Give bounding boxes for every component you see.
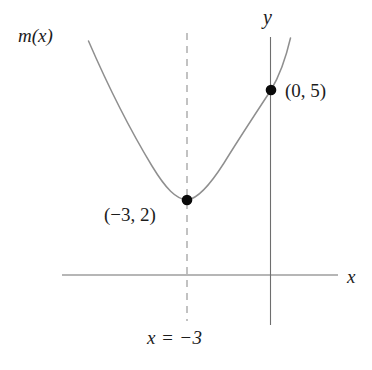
parabola-curve xyxy=(89,38,291,200)
parabola-figure: m(x) y x (0, 5) (−3, 2) x = −3 xyxy=(0,0,372,370)
axis-of-symmetry-label: x = −3 xyxy=(147,328,202,347)
y-intercept-point-label: (0, 5) xyxy=(285,81,326,100)
y-axis-label: y xyxy=(263,7,272,27)
y-intercept-point-marker xyxy=(266,85,277,96)
vertex-point-marker xyxy=(182,195,193,206)
plot-canvas xyxy=(0,0,372,370)
x-axis-label: x xyxy=(347,267,355,286)
vertex-point-label: (−3, 2) xyxy=(104,205,156,224)
function-label-mx: m(x) xyxy=(18,26,53,45)
